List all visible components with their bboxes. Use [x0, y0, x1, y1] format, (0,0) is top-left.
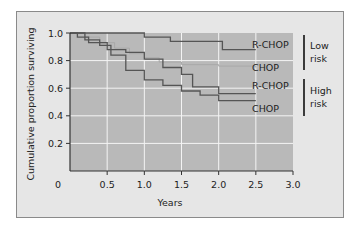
- low-risk-label-line2: risk: [310, 53, 327, 64]
- high-risk-label-line2: risk: [310, 98, 327, 109]
- y-tick-label: 0.6: [48, 83, 63, 94]
- x-axis-ticks: 00.51.01.52.02.53.0: [55, 171, 301, 190]
- x-axis-title: Years: [156, 197, 182, 208]
- survival-chart: 1.00.80.60.40.2 00.51.01.52.02.53.0 Year…: [0, 0, 354, 232]
- high-risk-label-line1: High: [310, 85, 332, 96]
- series-label-rchop-low: R-CHOP: [252, 39, 289, 50]
- x-tick-label: 0.5: [100, 179, 115, 190]
- y-tick-label: 0.4: [48, 110, 63, 121]
- series-label-chop-low: CHOP: [252, 62, 279, 73]
- series-label-chop-high: CHOP: [252, 103, 279, 114]
- y-axis-ticks: 1.00.80.60.40.2: [48, 28, 70, 149]
- x-tick-label: 1.5: [174, 179, 189, 190]
- series-label-rchop-high: R-CHOP: [252, 80, 289, 91]
- x-tick-label: 3.0: [285, 179, 300, 190]
- x-tick-label: 2.0: [211, 179, 226, 190]
- y-axis-title: Cumulative proportion surviving: [25, 27, 36, 180]
- x-tick-label: 0: [55, 179, 61, 190]
- y-tick-label: 0.8: [48, 55, 63, 66]
- y-tick-label: 0.2: [48, 138, 63, 149]
- x-tick-label: 2.5: [248, 179, 263, 190]
- y-tick-label: 1.0: [48, 28, 63, 39]
- x-tick-label: 1.0: [137, 179, 152, 190]
- low-risk-label-line1: Low: [310, 40, 329, 51]
